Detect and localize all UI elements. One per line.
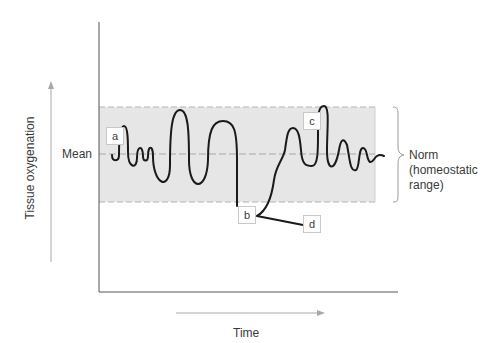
- b-to-d-connector: [257, 216, 303, 225]
- norm-label-line-1: Norm: [409, 148, 478, 163]
- mean-label: Mean: [62, 147, 92, 161]
- x-axis-label: Time: [233, 326, 259, 340]
- y-axis-label: Tissue oxygenation: [23, 117, 37, 220]
- marker-b: b: [238, 206, 256, 224]
- norm-label: Norm (homeostatic range): [409, 148, 478, 193]
- marker-a: a: [106, 127, 124, 145]
- norm-label-line-3: range): [409, 178, 478, 193]
- marker-d: d: [303, 215, 321, 233]
- norm-label-line-2: (homeostatic: [409, 163, 478, 178]
- y-arrowhead-icon: [48, 81, 54, 89]
- norm-brace-icon: [393, 107, 404, 202]
- x-arrowhead-icon: [317, 310, 325, 316]
- marker-c: c: [303, 112, 321, 130]
